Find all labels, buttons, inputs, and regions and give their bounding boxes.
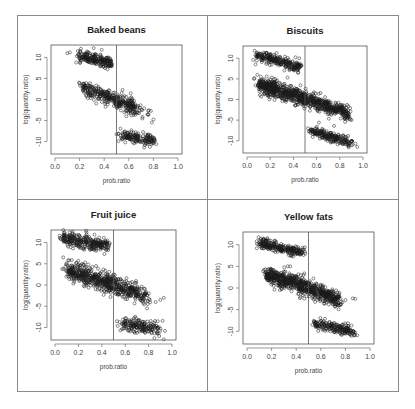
x-tick-label: 0.0: [242, 353, 252, 360]
y-tick-label: -5: [227, 306, 234, 312]
y-axis-label: log(quantity.ratio): [214, 263, 222, 313]
x-axis-label: prob.ratio: [295, 367, 323, 375]
y-tick-label: 5: [227, 264, 234, 268]
x-tick-label: 0.6: [316, 353, 326, 360]
x-axis: 0.00.20.40.60.81.0: [242, 348, 375, 360]
x-tick-label: 0.2: [267, 353, 277, 360]
y-tick-label: 0: [227, 286, 234, 290]
x-tick-label: 0.8: [341, 353, 351, 360]
x-tick-label: 0.4: [291, 353, 301, 360]
y-axis: 1050-5-10: [227, 241, 239, 337]
y-tick-label: -10: [227, 326, 234, 336]
data-points: [255, 236, 359, 338]
x-tick-label: 1.0: [365, 353, 375, 360]
panel-title: Yellow fats: [284, 211, 333, 222]
y-tick-label: 10: [227, 241, 234, 249]
scatter-panel-yellow-fats: Yellow fats0.00.20.40.60.81.0prob.ratio1…: [0, 0, 415, 409]
